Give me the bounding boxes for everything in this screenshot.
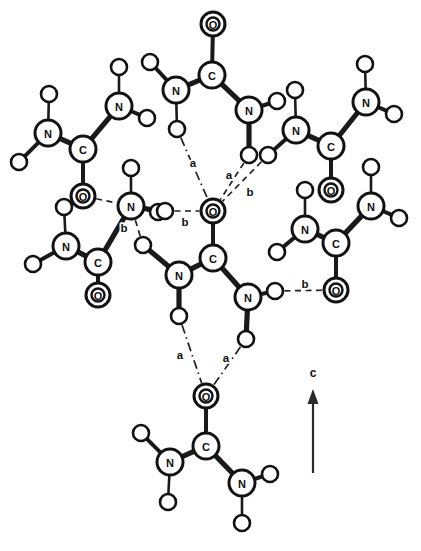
atom-n-b3: N (163, 77, 189, 103)
atom-hydrogen-e6 (267, 283, 283, 299)
atom-outline (386, 106, 402, 122)
atom-outline (118, 193, 144, 219)
atom-outline (194, 384, 218, 408)
atom-hydrogen-d2 (56, 199, 72, 215)
atom-hydrogen-g4 (133, 425, 149, 441)
atom-hydrogen-a2 (41, 86, 57, 102)
covalent-bond-a1-a3 (24, 141, 40, 157)
atom-outline (260, 147, 276, 163)
atom-outline (25, 256, 41, 272)
covalent-bond-b3-b4 (154, 67, 168, 82)
atom-hydrogen-a8 (139, 110, 155, 126)
atom-hydrogen-f7 (363, 159, 379, 175)
atom-outline (11, 154, 27, 170)
atom-hydrogen-d3 (25, 256, 41, 272)
atom-outline (200, 245, 226, 271)
atom-outline (86, 283, 110, 307)
atom-outline (56, 199, 72, 215)
atom-hydrogen-f2 (297, 182, 313, 198)
covalent-bond-c6-c7 (365, 70, 366, 90)
hydrogen-bond-label-b-7: b (120, 222, 127, 234)
atom-outline (267, 283, 283, 299)
hydrogen-bond-label-a-1: a (226, 169, 233, 181)
covalent-bond-d1-d2 (64, 213, 65, 234)
atom-hydrogen-f3 (269, 244, 285, 260)
hydrogen-bond-b-2 (222, 162, 261, 202)
atom-outline (234, 515, 250, 531)
atom-hydrogen-b5 (169, 121, 185, 137)
atom-outline (85, 249, 111, 275)
atom-hydrogen-h2 (135, 237, 151, 253)
atom-outline (358, 193, 384, 219)
atom-o-g1: O (194, 384, 218, 408)
atom-outline (70, 136, 96, 162)
covalent-bond-e5-e7 (246, 308, 247, 332)
atom-n-a1: N (35, 120, 61, 146)
atom-outline (106, 93, 132, 119)
atom-outline (139, 110, 155, 126)
atom-hydrogen-f8 (391, 210, 407, 226)
atom-n-c6: N (353, 89, 379, 115)
molecular-structure-canvas: NCONCONNNCONNCONOCNNNCONOCNN aaaabbbbaaa… (0, 0, 421, 551)
atom-outline (171, 308, 187, 324)
atom-outline (157, 449, 183, 475)
atom-c-c4: C (318, 133, 344, 159)
atom-n-b6: N (236, 97, 262, 123)
atom-outline (323, 230, 349, 256)
atom-n-f1: N (292, 216, 318, 242)
atom-c-a4: C (70, 136, 96, 162)
atom-hydrogen-c8 (386, 106, 402, 122)
atom-outline (123, 160, 139, 176)
atom-outline (269, 244, 285, 260)
atom-c-b1: C (199, 62, 225, 88)
hydrogen-bond-a-4 (182, 325, 202, 383)
atom-o-f5: O (324, 278, 348, 302)
covalent-bond-a4-a6 (90, 115, 111, 140)
atom-n-e3: N (166, 262, 192, 288)
atom-outline (166, 262, 192, 288)
atom-outline (201, 12, 225, 36)
atom-outline (53, 233, 79, 259)
atom-outline (111, 59, 127, 75)
atom-c-e2: C (200, 245, 226, 271)
hydrogen-bond-label-b-2: b (246, 186, 253, 198)
atom-outline (238, 331, 254, 347)
atom-hydrogen-b8 (241, 147, 257, 163)
atom-outline (160, 494, 176, 510)
atom-n-c1: N (283, 117, 309, 143)
atom-n-d6: N (118, 193, 144, 219)
covalent-bond-h2-e3 (148, 249, 170, 267)
atom-o-c5: O (319, 178, 343, 202)
covalent-bond-a1-a2 (48, 100, 49, 121)
atom-outline (283, 117, 309, 143)
covalent-bond-c4-c6 (338, 111, 359, 137)
atom-outline (319, 178, 343, 202)
atom-outline (241, 147, 257, 163)
covalent-bond-b3-b5 (176, 101, 177, 122)
atom-outline (236, 97, 262, 123)
atom-outline (41, 86, 57, 102)
atom-n-g6: N (229, 470, 255, 496)
hydrogen-bond-b-8 (96, 199, 117, 203)
atom-outline (133, 425, 149, 441)
atom-outline (269, 93, 285, 109)
atom-hydrogen-c2 (287, 82, 303, 98)
hydrogen-bond-label-a-5: a (223, 352, 230, 364)
atom-hydrogen-g7 (262, 466, 278, 482)
atom-outline (169, 121, 185, 137)
atom-hydrogen-c3 (260, 147, 276, 163)
atom-c-d4: C (85, 249, 111, 275)
atom-o-a5: O (71, 184, 95, 208)
covalent-bond-e2-e5 (221, 267, 241, 289)
atom-outline (229, 470, 255, 496)
urea-hydrogen-bond-figure: NCONCONNNCONNCONOCNNNCONOCNN aaaabbbbaaa… (0, 0, 421, 551)
atom-hydrogen-b7 (269, 93, 285, 109)
atom-hydrogen-b4 (142, 54, 158, 70)
atom-n-f6: N (358, 193, 384, 219)
atom-hydrogen-a3 (11, 154, 27, 170)
atom-outline (262, 466, 278, 482)
atom-outline (142, 54, 158, 70)
atom-hydrogen-c7 (357, 56, 373, 72)
axis-indicator: c (308, 366, 319, 473)
hydrogen-bond-label-a-4: a (177, 349, 184, 361)
